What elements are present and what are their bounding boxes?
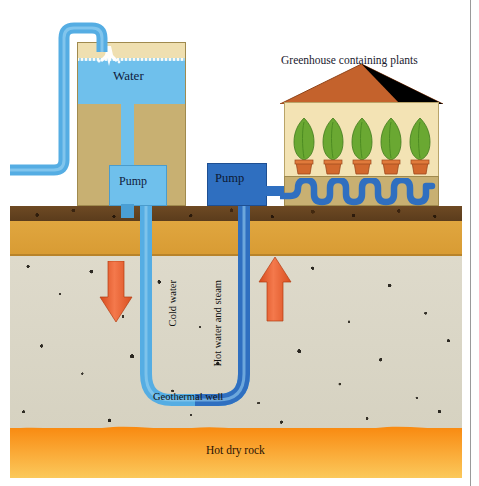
water-inlet-pipe	[10, 22, 110, 182]
hot-water-up-arrow	[258, 256, 292, 322]
label-pump-well: Pump	[215, 171, 244, 186]
tank-downpipe	[121, 104, 134, 170]
geothermal-diagram: Greenhouse containing plants Water Pump …	[0, 0, 479, 486]
greenhouse-heating-pipe	[280, 178, 442, 206]
geothermal-well-pipe	[140, 204, 250, 414]
greenhouse-roof	[280, 64, 443, 104]
label-geothermal-well: Geothermal well	[153, 391, 223, 402]
label-hot-water-and-steam: Hot water and steam	[212, 280, 223, 367]
pump-tank-outlet	[121, 204, 134, 218]
cold-water-down-arrow	[99, 261, 133, 323]
greenhouse-plants	[288, 116, 436, 178]
page-rule	[470, 0, 471, 486]
label-hot-dry-rock: Hot dry rock	[206, 444, 265, 456]
illustration-canvas: Greenhouse containing plants Water Pump …	[10, 8, 462, 478]
label-cold-water: Cold water	[167, 280, 178, 326]
label-greenhouse: Greenhouse containing plants	[281, 54, 418, 66]
label-pump-tank: Pump	[119, 174, 147, 189]
label-water: Water	[113, 68, 144, 84]
